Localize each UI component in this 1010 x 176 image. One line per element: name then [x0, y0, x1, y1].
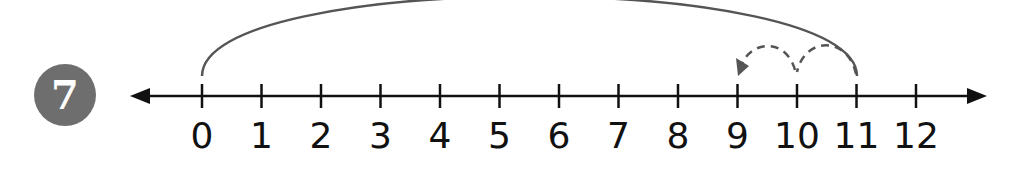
tick-label-11: 11: [827, 118, 887, 154]
tick-label-8: 8: [648, 118, 708, 154]
tick-label-10: 10: [767, 118, 827, 154]
jump-arc-11-to-10: [797, 45, 856, 74]
number-line-diagram: 7 0123456789101112: [0, 0, 1010, 176]
tick-label-12: 12: [886, 118, 946, 154]
jump-arc-10-to-9: [742, 46, 795, 70]
jump-arc-0-to-11: [202, 0, 857, 76]
tick-label-3: 3: [351, 118, 411, 154]
tick-label-0: 0: [172, 118, 232, 154]
tick-label-6: 6: [529, 118, 589, 154]
tick-label-9: 9: [708, 118, 768, 154]
tick-label-5: 5: [470, 118, 530, 154]
tick-label-4: 4: [410, 118, 470, 154]
tick-label-2: 2: [291, 118, 351, 154]
left-arrow-icon: [130, 88, 150, 104]
right-arrow-icon: [967, 88, 987, 104]
dashed-arrowhead-icon: [736, 58, 749, 76]
tick-label-7: 7: [589, 118, 649, 154]
tick-label-1: 1: [232, 118, 292, 154]
